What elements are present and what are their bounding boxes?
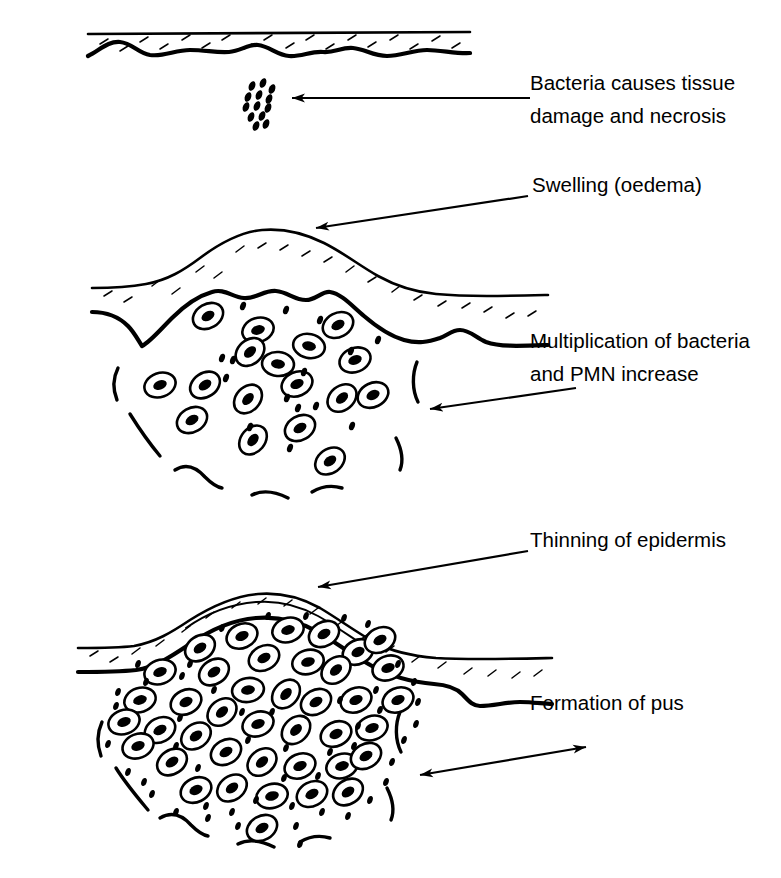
label-thinning: Thinning of epidermis bbox=[530, 528, 726, 551]
label-bacteria-damage-line2: damage and necrosis bbox=[530, 104, 726, 127]
label-multiplication-line1: Multiplication of bacteria bbox=[530, 329, 751, 352]
abscess-formation-diagram: Bacteria causes tissue damage and necros… bbox=[0, 0, 781, 878]
label-multiplication-line2: and PMN increase bbox=[530, 362, 699, 385]
label-swelling: Swelling (oedema) bbox=[532, 173, 702, 196]
arrow-swelling bbox=[316, 196, 528, 228]
bacteria-cluster-initial bbox=[241, 77, 276, 132]
label-formation-of-pus: Formation of pus bbox=[530, 691, 684, 714]
pmn-cell-group-stage2 bbox=[141, 298, 393, 481]
arrow-multiplication bbox=[430, 388, 576, 409]
panel-mature-abscess bbox=[78, 594, 552, 849]
arrow-formation-of-pus bbox=[420, 747, 586, 775]
figure-root: Bacteria causes tissue damage and necros… bbox=[0, 0, 781, 878]
epidermis-band-flat bbox=[88, 32, 470, 56]
panel-normal-skin bbox=[88, 32, 470, 132]
arrow-thinning bbox=[318, 551, 528, 587]
pmn-cell-group-stage3 bbox=[105, 614, 418, 847]
epidermis-band-raised bbox=[92, 230, 548, 346]
label-bacteria-damage-line1: Bacteria causes tissue bbox=[530, 71, 735, 94]
epidermis-hatching bbox=[100, 35, 460, 51]
panel-early-abscess bbox=[92, 230, 548, 498]
labels: Bacteria causes tissue damage and necros… bbox=[530, 71, 751, 714]
epidermis-hatching bbox=[104, 243, 536, 318]
